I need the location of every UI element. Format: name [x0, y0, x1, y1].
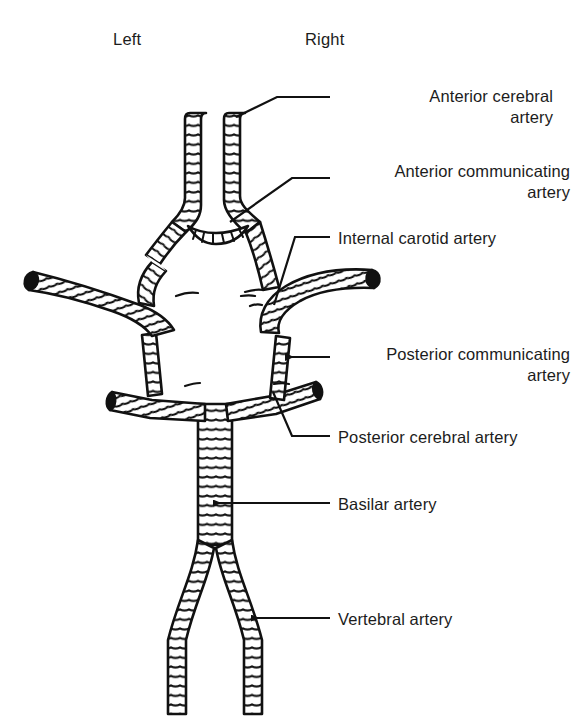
vessel-anterior-cerebral-artery-right	[224, 113, 260, 233]
vessel-cut-end-posterior-cerebral-right	[313, 382, 322, 399]
figure-root: Left Right Anterior cerebral artery Ante…	[0, 0, 577, 727]
callout-vertebral-artery: Vertebral artery	[338, 609, 570, 630]
vessel-cut-end-posterior-cerebral-left	[107, 392, 115, 410]
callout-internal-carotid-artery: Internal carotid artery	[338, 228, 570, 249]
vessel-anterior-cerebral-artery-left	[172, 113, 206, 232]
vessel-posterior-communicating-artery-left	[142, 333, 162, 396]
callout-posterior-communicating-artery: Posterior communicating artery	[338, 344, 570, 387]
vessel-internal-carotid-artery-left	[138, 262, 166, 306]
vessel-vertebral-artery-right	[216, 540, 262, 714]
leader-anterior-cerebral-artery	[236, 97, 330, 117]
orientation-label-right: Right	[305, 30, 345, 49]
callout-basilar-artery: Basilar artery	[338, 494, 570, 515]
vessel-basilar-artery	[198, 404, 232, 545]
callout-anterior-communicating-artery: Anterior communicating artery	[338, 161, 570, 204]
orientation-label-left: Left	[113, 30, 141, 49]
vessel-posterior-cerebral-artery-left	[110, 392, 205, 421]
vessel-vertebral-artery-left	[168, 540, 214, 714]
callout-posterior-cerebral-artery: Posterior cerebral artery	[338, 427, 570, 448]
vessel-ring-limb-right	[246, 222, 279, 290]
vessel-cut-end-middle-cerebral-left	[25, 272, 38, 290]
vessel-cut-end-internal-carotid-right	[367, 270, 380, 288]
vessel-group	[25, 113, 380, 714]
callout-anterior-cerebral-artery: Anterior cerebral artery	[338, 86, 553, 129]
vessel-ring-limb-left	[146, 222, 186, 264]
